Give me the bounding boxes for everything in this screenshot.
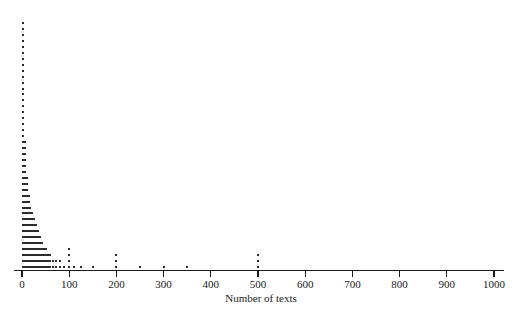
data-dot — [22, 70, 24, 72]
x-axis-title: Number of texts — [0, 292, 522, 304]
data-dot — [24, 165, 26, 167]
plot-area — [0, 0, 522, 272]
data-dot — [22, 46, 24, 48]
x-tick-label: 200 — [108, 279, 125, 290]
data-dot — [22, 117, 24, 119]
data-dot — [68, 248, 70, 250]
data-dot — [45, 248, 47, 250]
data-dot — [22, 76, 24, 78]
data-dot — [22, 28, 24, 30]
data-dot — [26, 177, 28, 179]
x-tick-label: 300 — [155, 279, 172, 290]
data-dot — [68, 260, 70, 262]
data-dot — [24, 171, 26, 173]
x-tick-label: 400 — [203, 279, 220, 290]
data-dot — [68, 266, 70, 268]
data-dot — [257, 254, 259, 256]
data-dot — [22, 93, 24, 95]
data-dot — [31, 212, 33, 214]
data-dot — [24, 159, 26, 161]
data-dot — [186, 266, 188, 268]
data-dot — [22, 135, 24, 137]
x-tick-label: 700 — [344, 279, 361, 290]
data-dot — [52, 266, 54, 268]
x-tick-label: 100 — [61, 279, 78, 290]
data-dot — [257, 266, 259, 268]
data-dot — [163, 266, 165, 268]
x-tick-label: 800 — [391, 279, 408, 290]
data-dot — [22, 82, 24, 84]
data-dot — [59, 266, 61, 268]
data-dot — [59, 260, 61, 262]
data-dot — [24, 147, 26, 149]
data-dot — [39, 236, 41, 238]
data-dot — [22, 111, 24, 113]
data-dot — [92, 266, 94, 268]
data-dot — [68, 254, 70, 256]
data-dot — [41, 242, 43, 244]
data-dot — [139, 266, 141, 268]
data-dot — [28, 201, 30, 203]
x-tick-label: 500 — [250, 279, 267, 290]
data-dot — [115, 266, 117, 268]
data-dot — [26, 183, 28, 185]
x-tick-label: 600 — [297, 279, 314, 290]
data-dot — [49, 254, 51, 256]
data-dot — [22, 58, 24, 60]
data-dot — [33, 218, 35, 220]
data-dot — [22, 34, 24, 36]
data-dot — [22, 52, 24, 54]
data-dot — [22, 123, 24, 125]
data-dot — [22, 64, 24, 66]
data-dot — [115, 260, 117, 262]
data-dot — [73, 266, 75, 268]
data-dot — [22, 40, 24, 42]
data-dot — [26, 189, 28, 191]
x-tick-label: 900 — [439, 279, 456, 290]
data-dot — [22, 22, 24, 24]
dot-plot-figure: 01002003004005006007008009001000 Number … — [0, 0, 522, 318]
data-dot — [257, 260, 259, 262]
data-dot — [22, 88, 24, 90]
data-dot — [52, 260, 54, 262]
data-dot — [24, 141, 26, 143]
x-tick-label: 0 — [19, 279, 25, 290]
x-tick-label: 1000 — [483, 279, 505, 290]
data-dot — [63, 266, 65, 268]
data-dot — [28, 195, 30, 197]
data-dot — [24, 153, 26, 155]
data-dot — [22, 129, 24, 131]
data-dot — [80, 266, 82, 268]
data-dot — [37, 230, 39, 232]
data-dot — [22, 99, 24, 101]
data-dot — [35, 224, 37, 226]
data-dot — [22, 105, 24, 107]
data-dot — [55, 260, 57, 262]
data-dot — [115, 254, 117, 256]
data-dot — [29, 207, 31, 209]
data-dot — [55, 266, 57, 268]
